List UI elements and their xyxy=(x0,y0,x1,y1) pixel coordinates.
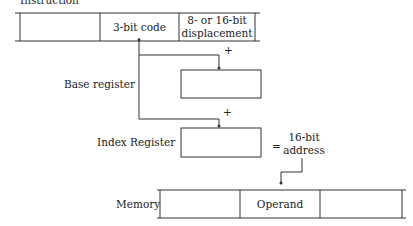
instruction-label: Instruction xyxy=(20,0,79,6)
plus-sign-base: + xyxy=(224,44,233,56)
arrow-head-memory xyxy=(280,182,283,185)
field-displacement-line1: 8- or 16-bit xyxy=(179,14,255,26)
base-register-label: Base register xyxy=(64,78,135,90)
field-displacement-line2: displacement xyxy=(179,27,255,39)
base-register-box xyxy=(181,70,261,98)
plus-sign-index: + xyxy=(223,106,232,118)
result-line1: 16-bit xyxy=(282,131,326,143)
result-line2: address xyxy=(282,144,326,156)
index-register-label: Index Register xyxy=(97,136,175,148)
equals-sign: = xyxy=(272,140,281,152)
arrow-head-base xyxy=(218,67,221,70)
operand-cell: Operand xyxy=(240,198,320,210)
memory-label: Memory xyxy=(116,198,160,210)
field-3bit-code: 3-bit code xyxy=(100,21,179,33)
index-register-box xyxy=(181,128,261,157)
arrow-head-index xyxy=(218,125,221,128)
